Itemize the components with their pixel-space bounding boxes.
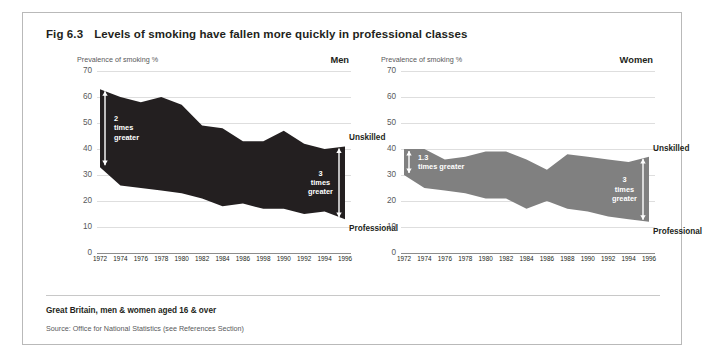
y-tick-label: 20 xyxy=(374,196,396,205)
annotation-line: 1.3 xyxy=(418,153,428,162)
chart-svg-men xyxy=(45,55,357,277)
y-tick-label: 60 xyxy=(70,92,92,101)
y-tick-label: 50 xyxy=(70,118,92,127)
x-tick-label: 1972 xyxy=(397,255,411,262)
x-tick-label: 1986 xyxy=(540,255,554,262)
x-tick-label: 1976 xyxy=(438,255,452,262)
x-tick-label: 1972 xyxy=(93,255,107,262)
area-band-men xyxy=(100,89,345,219)
series-label-unskilled: Unskilled xyxy=(653,144,689,153)
x-tick-label: 1974 xyxy=(417,255,431,262)
annotation-women-left-ratio: 1.3times greater xyxy=(418,153,464,172)
x-tick-label: 1990 xyxy=(277,255,291,262)
annotation-line: greater xyxy=(612,194,637,203)
y-tick-label: 30 xyxy=(374,170,396,179)
annotation-line: 3 xyxy=(622,175,626,184)
y-tick-label: 20 xyxy=(70,196,92,205)
y-tick-label: 70 xyxy=(70,66,92,75)
x-tick-label: 1980 xyxy=(175,255,189,262)
footer-source: Source: Office for National Statistics (… xyxy=(46,324,244,333)
annotation-women-right-ratio: 3timesgreater xyxy=(612,175,637,203)
annotation-line: times greater xyxy=(418,162,464,171)
x-tick-label: 1994 xyxy=(621,255,635,262)
x-tick-label: 1994 xyxy=(317,255,331,262)
x-tick-label: 1974 xyxy=(113,255,127,262)
x-tick-label: 1978 xyxy=(154,255,168,262)
x-tick-label: 1988 xyxy=(560,255,574,262)
footer-divider xyxy=(46,295,660,296)
x-tick-label: 1980 xyxy=(479,255,493,262)
x-tick-label: 1984 xyxy=(215,255,229,262)
annotation-line: greater xyxy=(308,187,333,196)
figure-panel: Fig 6.3Levels of smoking have fallen mor… xyxy=(22,12,682,345)
chart-svg-women xyxy=(349,55,661,277)
x-axis-labels-women: 1972197419761978198019821984198619881990… xyxy=(349,255,661,271)
annotation-line: times xyxy=(114,123,133,132)
y-tick-label: 30 xyxy=(70,170,92,179)
x-tick-label: 1998 xyxy=(256,255,270,262)
x-tick-label: 1990 xyxy=(581,255,595,262)
chart-panel-women: Prevalence of smoking % Women 0102030405… xyxy=(349,55,661,277)
y-tick-label: 10 xyxy=(70,222,92,231)
figure-title-text: Levels of smoking have fallen more quick… xyxy=(94,28,467,40)
y-tick-label: 70 xyxy=(374,66,396,75)
plot-area-men: 0102030405060702timesgreater3timesgreate… xyxy=(45,55,357,277)
annotation-men-left-ratio: 2timesgreater xyxy=(114,114,139,142)
y-tick-label: 10 xyxy=(374,222,396,231)
x-tick-label: 1992 xyxy=(601,255,615,262)
footer-note: Great Britain, men & women aged 16 & ove… xyxy=(46,306,216,315)
annotation-line: 3 xyxy=(318,169,322,178)
y-tick-label: 50 xyxy=(374,118,396,127)
x-tick-label: 1984 xyxy=(519,255,533,262)
x-tick-label: 1996 xyxy=(642,255,656,262)
series-label-professional: Professional xyxy=(653,227,702,236)
annotation-line: times xyxy=(615,185,634,194)
x-tick-label: 1986 xyxy=(236,255,250,262)
y-tick-label: 60 xyxy=(374,92,396,101)
annotation-line: 2 xyxy=(114,114,118,123)
y-tick-label: 40 xyxy=(374,144,396,153)
figure-title: Fig 6.3Levels of smoking have fallen mor… xyxy=(46,28,468,40)
annotation-line: greater xyxy=(114,133,139,142)
x-tick-label: 1992 xyxy=(297,255,311,262)
x-axis-labels-men: 1972197419761978198019821984198619981990… xyxy=(45,255,357,271)
figure-number: Fig 6.3 xyxy=(46,28,83,40)
annotation-line: times xyxy=(311,178,330,187)
plot-area-women: 0102030405060701.3times greater3timesgre… xyxy=(349,55,661,277)
x-tick-label: 1982 xyxy=(499,255,513,262)
x-tick-label: 1976 xyxy=(134,255,148,262)
x-tick-label: 1978 xyxy=(458,255,472,262)
annotation-men-right-ratio: 3timesgreater xyxy=(308,169,333,197)
chart-panel-men: Prevalence of smoking % Men 010203040506… xyxy=(45,55,357,277)
x-tick-label: 1982 xyxy=(195,255,209,262)
y-tick-label: 40 xyxy=(70,144,92,153)
